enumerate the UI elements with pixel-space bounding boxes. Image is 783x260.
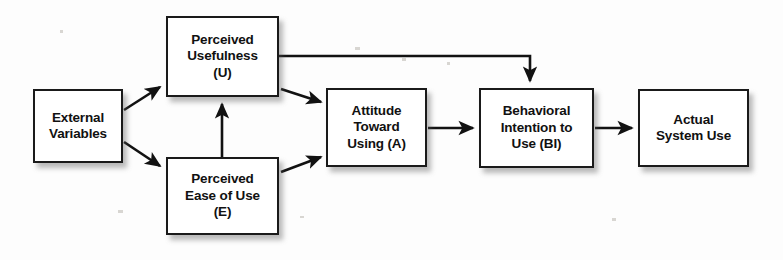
node-external-variables[interactable]: External Variables	[33, 89, 123, 163]
node-perceived-usefulness[interactable]: Perceived Usefulness (U)	[166, 16, 279, 97]
scan-speck	[300, 216, 304, 218]
node-attitude-toward-using-label: Attitude Toward Using (A)	[344, 103, 409, 152]
edge-external-to-usefulness	[124, 87, 160, 110]
node-actual-system-use-label: Actual System Use	[653, 112, 734, 145]
scan-speck	[60, 30, 63, 33]
edge-ease-to-attitude	[281, 157, 321, 172]
node-external-variables-label: External Variables	[46, 110, 110, 143]
tam-diagram: External Variables Perceived Usefulness …	[0, 0, 783, 260]
node-perceived-ease-of-use-label: Perceived Ease of Use (E)	[182, 171, 263, 220]
scan-speck	[355, 47, 360, 50]
scan-speck	[612, 218, 616, 221]
node-perceived-ease-of-use[interactable]: Perceived Ease of Use (E)	[166, 157, 279, 235]
node-behavioral-intention-to-use-label: Behavioral Intention to Use (BI)	[498, 103, 576, 152]
edge-usefulness-to-attitude	[281, 89, 321, 102]
node-perceived-usefulness-label: Perceived Usefulness (U)	[184, 32, 261, 81]
scan-speck	[447, 62, 450, 65]
scan-speck	[402, 58, 406, 61]
node-behavioral-intention-to-use[interactable]: Behavioral Intention to Use (BI)	[479, 88, 594, 168]
edge-external-to-ease	[124, 142, 160, 166]
node-actual-system-use[interactable]: Actual System Use	[638, 89, 749, 167]
scan-speck	[118, 210, 123, 213]
node-attitude-toward-using[interactable]: Attitude Toward Using (A)	[326, 88, 427, 167]
